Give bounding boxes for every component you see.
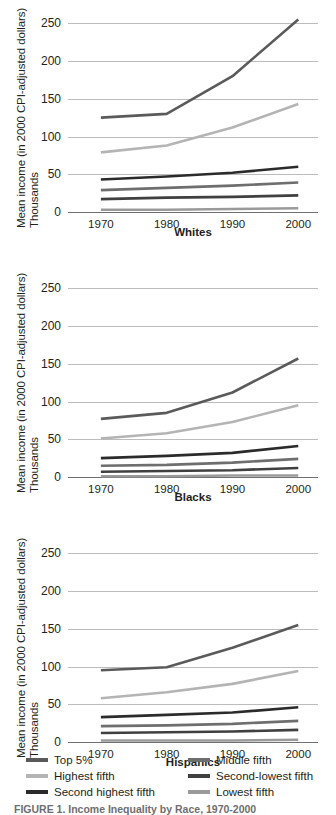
legend-swatch-icon bbox=[188, 790, 210, 794]
y-axis-tick-label: 50 bbox=[48, 167, 61, 181]
y-axis-tick-label: 100 bbox=[41, 660, 61, 674]
legend-swatch-icon bbox=[26, 774, 48, 778]
plot-area-whites: 0501001502002501970198019902000 bbox=[68, 12, 318, 212]
series-line bbox=[101, 625, 298, 670]
x-axis-line bbox=[68, 742, 318, 743]
legend-label: Top 5% bbox=[54, 754, 92, 766]
y-axis-label-whites: Mean income (in 2000 CPI-adjusted dollar… bbox=[0, 0, 40, 232]
series-line bbox=[101, 740, 298, 741]
series-line bbox=[101, 167, 298, 180]
x-axis-line bbox=[68, 212, 318, 213]
series-line bbox=[101, 446, 298, 458]
series-line bbox=[101, 475, 298, 476]
plot-area-hispanics: 0501001502002501970198019902000 bbox=[68, 542, 318, 742]
series-line bbox=[101, 20, 298, 118]
legend-label: Lowest fifth bbox=[216, 786, 274, 798]
figure-caption: FIGURE 1. Income Inequality by Race, 197… bbox=[14, 803, 336, 815]
series-line bbox=[101, 721, 298, 726]
y-axis-tick-label: 200 bbox=[41, 584, 61, 598]
y-axis-tick-label: 150 bbox=[41, 92, 61, 106]
series-line bbox=[101, 208, 298, 210]
series-line bbox=[101, 730, 298, 733]
series-line bbox=[101, 359, 298, 419]
y-axis-tick-label: 0 bbox=[54, 735, 61, 749]
y-axis-label-line2: Thousands bbox=[28, 702, 40, 758]
y-axis-tick-label: 0 bbox=[54, 205, 61, 219]
y-axis-tick-label: 150 bbox=[41, 622, 61, 636]
y-axis-tick-label: 200 bbox=[41, 54, 61, 68]
y-axis-tick-label: 250 bbox=[41, 281, 61, 295]
y-axis-tick-label: 250 bbox=[41, 546, 61, 560]
y-axis-tick-label: 150 bbox=[41, 357, 61, 371]
series-lines bbox=[68, 12, 318, 212]
series-line bbox=[101, 195, 298, 199]
panel-title-whites: Whites bbox=[68, 226, 318, 238]
y-axis-label-line2: Thousands bbox=[28, 437, 40, 493]
y-axis-tick-label: 200 bbox=[41, 319, 61, 333]
series-line bbox=[101, 671, 298, 698]
legend-item[interactable]: Top 5% bbox=[26, 752, 155, 768]
y-axis-tick-label: 50 bbox=[48, 432, 61, 446]
series-lines bbox=[68, 542, 318, 742]
legend-swatch-icon bbox=[188, 774, 210, 778]
y-axis-tick-label: 50 bbox=[48, 697, 61, 711]
plot-area-blacks: 0501001502002501970198019902000 bbox=[68, 277, 318, 477]
legend-label: Second highest fifth bbox=[54, 786, 155, 798]
legend-item[interactable]: Lowest fifth bbox=[188, 784, 313, 800]
y-axis-label-hispanics: Mean income (in 2000 CPI-adjusted dollar… bbox=[0, 530, 40, 762]
y-axis-label-line2: Thousands bbox=[28, 172, 40, 228]
series-line bbox=[101, 707, 298, 717]
y-axis-label-blacks: Mean income (in 2000 CPI-adjusted dollar… bbox=[0, 265, 40, 497]
legend-column-right: Middle fifthSecond-lowest fifthLowest fi… bbox=[188, 752, 313, 800]
series-line bbox=[101, 104, 298, 152]
legend-label: Second-lowest fifth bbox=[216, 770, 313, 782]
y-axis-label-line1: Mean income (in 2000 CPI-adjusted dollar… bbox=[15, 273, 27, 493]
chart-panel-blacks: Mean income (in 2000 CPI-adjusted dollar… bbox=[0, 265, 336, 530]
legend-swatch-icon bbox=[26, 758, 48, 762]
panel-title-blacks: Blacks bbox=[68, 491, 318, 503]
y-axis-tick-label: 100 bbox=[41, 395, 61, 409]
legend-item[interactable]: Second highest fifth bbox=[26, 784, 155, 800]
y-axis-tick-label: 100 bbox=[41, 130, 61, 144]
y-axis-tick-label: 250 bbox=[41, 16, 61, 30]
y-axis-label-line1: Mean income (in 2000 CPI-adjusted dollar… bbox=[15, 8, 27, 228]
legend-column-left: Top 5%Highest fifthSecond highest fifth bbox=[26, 752, 155, 800]
series-line bbox=[101, 183, 298, 191]
series-line bbox=[101, 405, 298, 438]
legend-item[interactable]: Middle fifth bbox=[188, 752, 313, 768]
legend-item[interactable]: Highest fifth bbox=[26, 768, 155, 784]
legend-item[interactable]: Second-lowest fifth bbox=[188, 768, 313, 784]
series-line bbox=[101, 468, 298, 472]
chart-panel-whites: Mean income (in 2000 CPI-adjusted dollar… bbox=[0, 0, 336, 265]
series-line bbox=[101, 459, 298, 466]
chart-legend: Top 5%Highest fifthSecond highest fifth … bbox=[0, 752, 336, 800]
series-lines bbox=[68, 277, 318, 477]
legend-label: Middle fifth bbox=[216, 754, 272, 766]
y-axis-tick-label: 0 bbox=[54, 470, 61, 484]
y-axis-label-line1: Mean income (in 2000 CPI-adjusted dollar… bbox=[15, 538, 27, 758]
chart-panel-hispanics: Mean income (in 2000 CPI-adjusted dollar… bbox=[0, 530, 336, 788]
legend-label: Highest fifth bbox=[54, 770, 115, 782]
legend-swatch-icon bbox=[188, 758, 210, 762]
legend-swatch-icon bbox=[26, 790, 48, 794]
